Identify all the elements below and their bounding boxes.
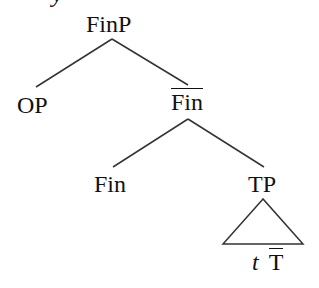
edge-finbar-tp: [188, 119, 264, 167]
node-finp: FinP: [86, 12, 131, 36]
trace-t: t: [252, 249, 259, 275]
tree-edges: [0, 0, 319, 288]
node-fin-bar: Fin: [171, 88, 203, 114]
tp-triangle: [223, 199, 303, 244]
edge-finp-op: [36, 39, 112, 87]
node-tp: TP: [248, 172, 276, 196]
node-fin: Fin: [94, 172, 126, 196]
triangle-content: t T: [252, 248, 283, 274]
fin-bar-label: Fin: [171, 88, 203, 113]
edge-finp-finbar: [112, 39, 188, 85]
t-bar-label: T: [269, 248, 284, 273]
syntax-tree-diagram: y FinP OP Fin Fin TP t T: [0, 0, 319, 288]
node-op: OP: [17, 93, 48, 117]
edge-finbar-fin: [113, 119, 188, 167]
